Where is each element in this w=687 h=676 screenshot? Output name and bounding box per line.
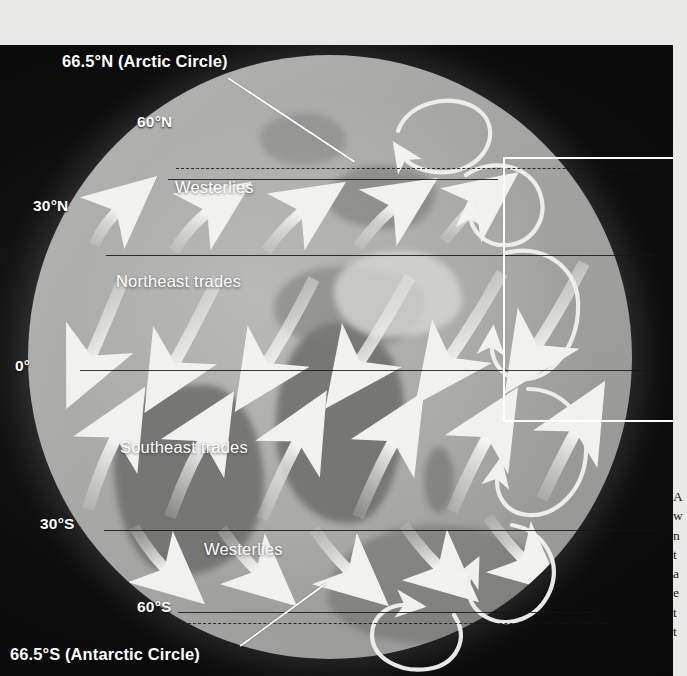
- label-lat-30n: 30°N: [33, 197, 68, 215]
- detail-callout-box[interactable]: [503, 157, 673, 422]
- label-westerlies-south: Westerlies: [204, 540, 283, 559]
- latitude-line-30s: [104, 530, 660, 531]
- figure-panel: [0, 45, 673, 676]
- label-westerlies-north: Westerlies: [175, 178, 254, 197]
- label-lat-30s: 30°S: [40, 515, 75, 533]
- label-northeast-trades: Northeast trades: [116, 272, 241, 291]
- label-southeast-trades: Southeast trades: [120, 438, 248, 457]
- label-lat-60n: 60°N: [137, 113, 172, 131]
- label-lat-60s: 60°S: [137, 598, 172, 616]
- ferrel-cell-south: [468, 525, 554, 622]
- figure-page: A w n t a e t t: [0, 0, 687, 676]
- polar-cell-south: [372, 605, 461, 670]
- side-text-paragraph: A w n t a e t t: [673, 487, 687, 641]
- latitude-line-antarctic-circle: [188, 623, 608, 624]
- label-antarctic-circle: 66.5°S (Antarctic Circle): [10, 645, 200, 664]
- latitude-line-60s: [178, 612, 598, 613]
- label-arctic-circle: 66.5°N (Arctic Circle): [62, 52, 228, 71]
- polar-cell-north: [398, 101, 490, 173]
- side-text-column: A w n t a e t t: [673, 0, 687, 676]
- label-lat-0: 0°: [15, 357, 30, 375]
